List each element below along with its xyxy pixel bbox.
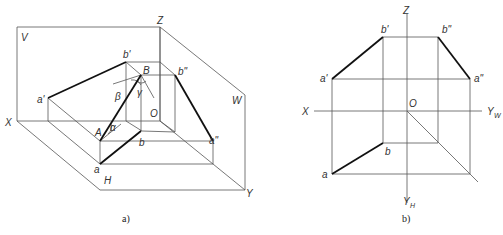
label-b: b: [385, 146, 391, 157]
label-B: B: [143, 65, 150, 76]
label-a: a: [94, 164, 100, 175]
proj-line: [160, 121, 175, 132]
figure-b-orthographic: Z X O Y W Y H a' b' b" a" b a b): [301, 5, 502, 225]
label-a-prime: a': [320, 73, 329, 84]
label-h-plane: H: [104, 175, 112, 186]
gamma-ref-line: [141, 75, 154, 98]
line-a-dprime-b-dprime: [175, 75, 213, 141]
label-origin: O: [150, 108, 158, 119]
proj-line: [48, 98, 100, 141]
line-b-dprime-a-dprime: [438, 37, 470, 79]
diagonal-45-line: [407, 111, 478, 182]
figure-a-pictorial: V H W X Y Z O a' b' B b" A α β γ b a a" …: [4, 15, 254, 225]
label-y-axis: Y: [246, 188, 254, 199]
label-v-plane: V: [21, 32, 29, 43]
line-a-prime-b-prime: [332, 37, 383, 79]
proj-line: [48, 121, 100, 164]
label-a-dprime: a": [209, 135, 219, 146]
label-yh-axis: Y H: [403, 196, 416, 209]
label-b: b: [139, 137, 145, 148]
caption-a: a): [122, 213, 130, 225]
label-b-prime: b': [381, 24, 390, 35]
label-beta: β: [114, 91, 121, 102]
w-plane-outline: [160, 27, 245, 190]
caption-b: b): [402, 213, 410, 225]
label-alpha: α: [110, 122, 116, 133]
svg-text:H: H: [410, 202, 416, 209]
h-plane-outline: [17, 121, 245, 190]
proj-line: [142, 131, 175, 132]
label-x-axis: X: [301, 106, 309, 117]
label-b-dprime: b": [442, 24, 452, 35]
line-AB: [100, 75, 141, 141]
label-origin: O: [409, 98, 417, 109]
proj-line: [126, 62, 141, 75]
projection-diagram: V H W X Y Z O a' b' B b" A α β γ b a a" …: [0, 0, 503, 235]
label-z-axis: Z: [156, 15, 164, 26]
label-b-dprime: b": [178, 66, 188, 77]
label-yw-axis: Y W: [487, 106, 502, 119]
svg-text:W: W: [494, 112, 502, 119]
v-plane-outline: [17, 27, 160, 121]
label-w-plane: W: [232, 95, 243, 106]
label-b-prime: b': [123, 49, 132, 60]
y-axis: [160, 121, 245, 190]
label-a-prime: a': [37, 94, 46, 105]
label-A: A: [94, 127, 102, 138]
line-ab: [332, 143, 383, 174]
proj-line: [160, 62, 175, 75]
proj-line: [126, 121, 142, 131]
label-x-axis: X: [4, 117, 12, 128]
label-gamma: γ: [137, 87, 143, 98]
label-a: a: [322, 169, 328, 180]
label-a-dprime: a": [474, 73, 484, 84]
label-z-axis: Z: [402, 5, 410, 16]
